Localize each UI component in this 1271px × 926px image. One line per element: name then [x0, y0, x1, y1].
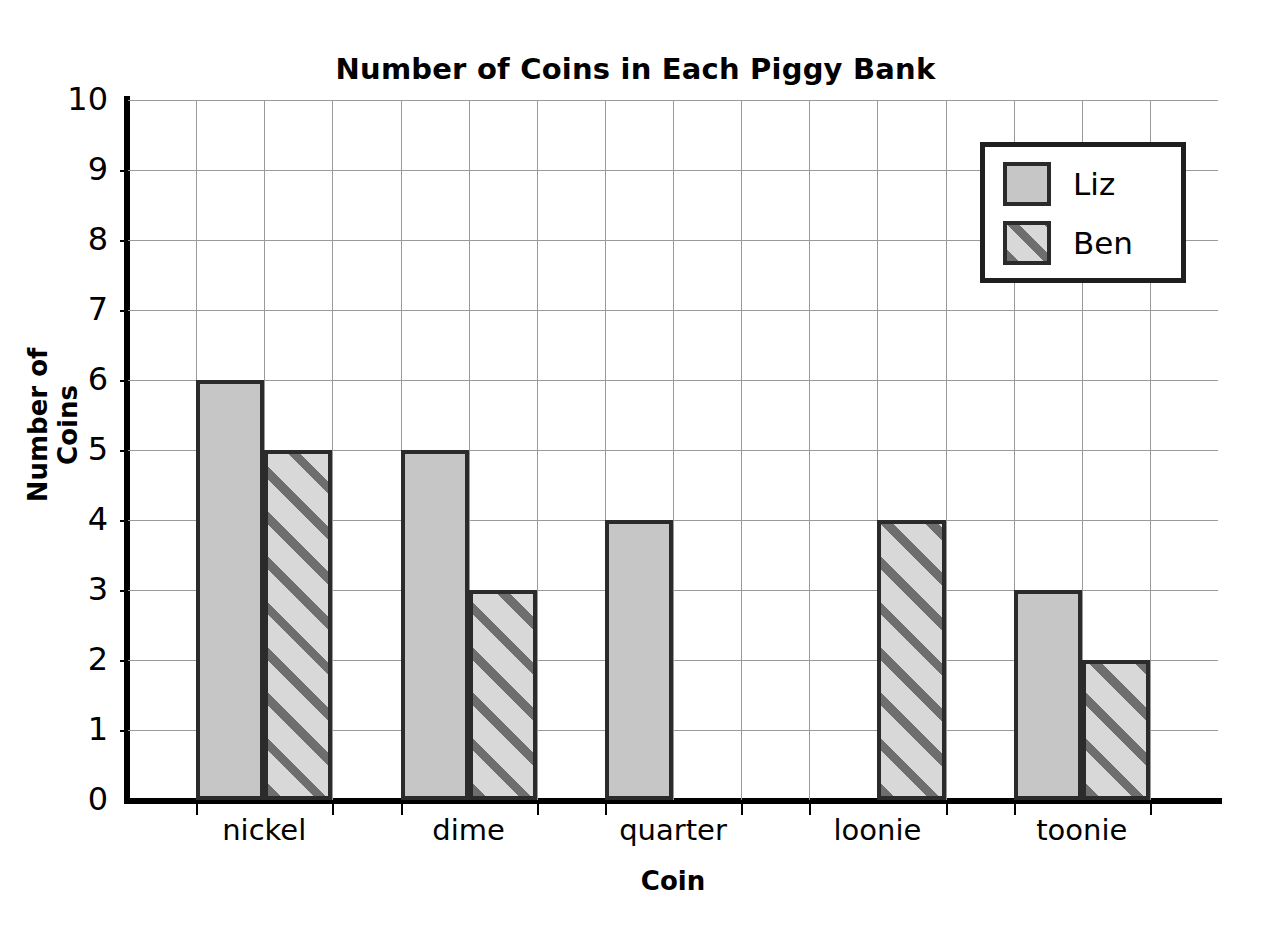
- y-axis-tick-label: 0: [48, 783, 108, 815]
- bar-nickel-liz[interactable]: [196, 380, 264, 800]
- chart-legend[interactable]: Liz Ben: [980, 142, 1186, 283]
- y-axis-tick-label: 4: [48, 503, 108, 535]
- legend-item-liz[interactable]: Liz: [1003, 158, 1115, 210]
- legend-swatch-liz-icon: [1003, 162, 1051, 206]
- bar-toonie-liz[interactable]: [1014, 590, 1082, 800]
- y-axis-tick-label: 3: [48, 573, 108, 605]
- legend-swatch-ben-hatch-icon: [1007, 225, 1047, 261]
- bar-dime-ben[interactable]: [469, 590, 537, 800]
- gridline-vertical: [741, 100, 742, 800]
- gridline-vertical: [673, 100, 674, 800]
- bar-hatch-pattern-icon: [881, 524, 941, 796]
- bar-hatch-pattern-icon: [473, 594, 533, 796]
- legend-swatch-ben-icon: [1003, 221, 1051, 265]
- legend-label-liz: Liz: [1073, 167, 1115, 201]
- legend-item-ben[interactable]: Ben: [1003, 217, 1133, 269]
- y-axis-tick-label: 10: [48, 83, 108, 115]
- x-axis-tick-label-toonie: toonie: [946, 814, 1219, 846]
- bar-hatch-pattern-icon: [1086, 664, 1146, 796]
- y-axis-tick-label: 2: [48, 643, 108, 675]
- bar-toonie-ben[interactable]: [1082, 660, 1150, 800]
- gridline-vertical: [332, 100, 333, 800]
- y-axis-tick-label: 8: [48, 223, 108, 255]
- chart-title: Number of Coins in Each Piggy Bank: [0, 52, 1271, 86]
- chart-page: Number of Coins in Each Piggy Bank Numbe…: [0, 0, 1271, 926]
- bar-quarter-liz[interactable]: [605, 520, 673, 800]
- x-axis-title: Coin: [128, 866, 1218, 896]
- y-axis-tick-label: 1: [48, 713, 108, 745]
- y-axis-tick-label: 5: [48, 433, 108, 465]
- y-axis-tick-label: 9: [48, 153, 108, 185]
- gridline-vertical: [537, 100, 538, 800]
- gridline-vertical: [946, 100, 947, 800]
- gridline-vertical: [809, 100, 810, 800]
- legend-label-ben: Ben: [1073, 226, 1133, 260]
- y-axis-tick-label: 7: [48, 293, 108, 325]
- bar-hatch-pattern-icon: [268, 454, 328, 796]
- bar-nickel-ben[interactable]: [264, 450, 332, 800]
- y-axis-tick-label: 6: [48, 363, 108, 395]
- bar-dime-liz[interactable]: [401, 450, 469, 800]
- bar-loonie-ben[interactable]: [877, 520, 945, 800]
